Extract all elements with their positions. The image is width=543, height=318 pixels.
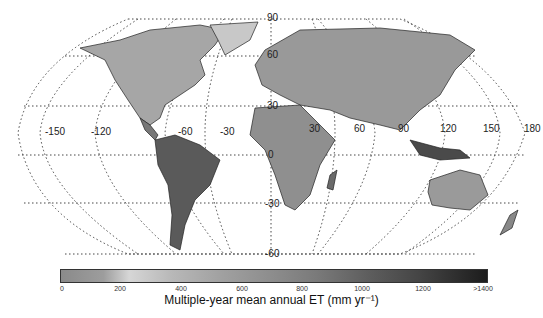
lon-label: 30	[309, 123, 320, 134]
colorbar	[60, 269, 488, 283]
africa	[250, 105, 335, 210]
colorbar-tick: 1200	[415, 285, 431, 292]
lon-label: 120	[440, 123, 457, 134]
new-zealand	[500, 210, 518, 235]
south-america	[155, 135, 220, 250]
lon-label: 180	[524, 123, 541, 134]
colorbar-tick: 1000	[354, 285, 370, 292]
lon-label: -60	[178, 126, 192, 137]
colorbar-tick: 200	[114, 285, 126, 292]
north-america	[80, 25, 225, 125]
australia	[428, 170, 488, 210]
colorbar-tick: 600	[236, 285, 248, 292]
lon-label: -120	[91, 126, 111, 137]
lon-label: 60	[354, 123, 365, 134]
landmasses	[80, 22, 518, 250]
colorbar-title: Multiple-year mean annual ET (mm yr⁻¹)	[0, 293, 543, 307]
lon-label: 90	[398, 123, 409, 134]
lon-label: 150	[483, 123, 500, 134]
lat-label: -60	[265, 248, 279, 259]
lat-label: 90	[267, 12, 278, 23]
lon-label: -30	[220, 126, 234, 137]
colorbar-tick: 400	[175, 285, 187, 292]
lon-label: -150	[45, 126, 65, 137]
colorbar-tick: 0	[60, 285, 64, 292]
lat-label: 60	[267, 49, 278, 60]
lat-label: 0	[268, 149, 274, 160]
lat-label: -30	[265, 198, 279, 209]
colorbar-tick: 800	[296, 285, 308, 292]
colorbar-tick: >1400	[473, 285, 493, 292]
lat-label: 30	[267, 100, 278, 111]
greenland	[210, 22, 258, 55]
indonesia	[410, 140, 470, 160]
